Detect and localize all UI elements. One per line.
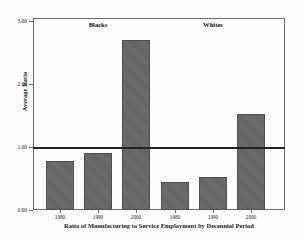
x-tick-mark	[60, 210, 61, 213]
y-tick-mark-2	[29, 84, 33, 85]
y-tick-mark-0	[29, 210, 33, 211]
x-tick-label: 1980	[155, 214, 195, 220]
x-tick-label: 1990	[193, 214, 233, 220]
x-tick-mark	[251, 210, 252, 213]
bar-whites-1990	[199, 177, 227, 210]
x-tick-mark	[175, 210, 176, 213]
y-tick-2: 2.00	[0, 80, 33, 89]
y-tick-0: 0.00	[0, 206, 33, 215]
y-tick-mark-3	[29, 21, 33, 22]
y-tick-label-1: 1.00	[18, 143, 27, 152]
bar-whites-1980	[161, 182, 189, 210]
bar-blacks-1990	[84, 153, 112, 210]
x-tick-mark	[136, 210, 137, 213]
bar-whites-2000	[237, 114, 265, 210]
x-tick-mark	[98, 210, 99, 213]
x-tick-label: 1990	[78, 214, 118, 220]
x-tick-mark	[213, 210, 214, 213]
group-label-whites: Whites	[173, 21, 253, 28]
chart-figure: 3.00 2.00 1.00 0.00 Average Ratio 1980 1…	[0, 0, 304, 239]
x-tick-label: 2000	[231, 214, 271, 220]
bar-blacks-2000	[122, 40, 150, 210]
x-tick-label: 2000	[116, 214, 156, 220]
bar-blacks-1980	[46, 161, 74, 210]
y-tick-label-0: 0.00	[18, 206, 27, 215]
y-axis-title: Average Ratio	[21, 42, 28, 142]
y-tick-label-3: 3.00	[18, 17, 27, 26]
x-axis-title: Ratio of Manufacturing to Service Employ…	[33, 222, 285, 229]
y-tick-1: 1.00	[0, 143, 33, 152]
reference-line	[33, 147, 285, 149]
y-tick-3: 3.00	[0, 17, 33, 26]
x-tick-label: 1980	[40, 214, 80, 220]
group-label-blacks: Blacks	[58, 21, 138, 28]
